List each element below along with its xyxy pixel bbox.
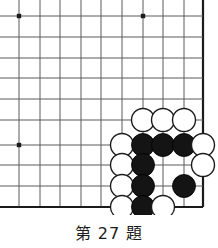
figure-caption: 第 27 題 bbox=[0, 216, 218, 248]
white-stone[interactable] bbox=[111, 196, 134, 216]
star-point bbox=[17, 14, 21, 18]
caption-text: 第 27 題 bbox=[75, 220, 144, 244]
white-stone[interactable] bbox=[111, 175, 134, 198]
white-stone[interactable] bbox=[192, 154, 215, 177]
star-point bbox=[17, 143, 21, 147]
go-board[interactable] bbox=[0, 0, 218, 215]
white-stone[interactable] bbox=[111, 154, 134, 177]
white-stone[interactable] bbox=[152, 196, 175, 216]
white-stone[interactable] bbox=[173, 109, 196, 132]
go-board-canvas[interactable] bbox=[0, 0, 218, 215]
black-stone[interactable] bbox=[132, 154, 155, 177]
star-point bbox=[141, 14, 145, 18]
black-stone[interactable] bbox=[132, 134, 155, 157]
black-stone[interactable] bbox=[132, 175, 155, 198]
black-stone[interactable] bbox=[152, 134, 175, 157]
black-stone[interactable] bbox=[173, 175, 196, 198]
white-stone[interactable] bbox=[152, 109, 175, 132]
figure-root: 第 27 題 bbox=[0, 0, 218, 248]
